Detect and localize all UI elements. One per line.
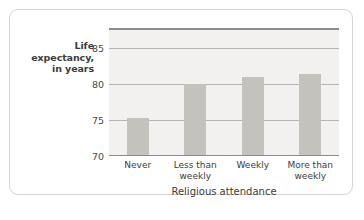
- x-axis-tick-label-line: Never: [107, 160, 169, 171]
- x-axis-tick-label-line: Weekly: [222, 160, 284, 171]
- x-axis-tick-label-line: weekly: [279, 171, 341, 182]
- x-axis-line: [109, 155, 339, 156]
- x-axis-label: Religious attendance: [109, 186, 339, 197]
- plot-area: 70758085 NeverLess thanweeklyWeeklyMore …: [109, 28, 339, 156]
- y-axis-tick-label: 70: [92, 151, 104, 162]
- y-axis-label-line-1: Life: [16, 40, 94, 52]
- x-axis-tick-label-line: Less than: [164, 160, 226, 171]
- y-axis-label-line-2: expectancy,: [16, 52, 94, 64]
- y-axis-tick-label: 80: [92, 79, 104, 90]
- x-axis-tick-label: Weekly: [222, 160, 284, 171]
- bar: [127, 118, 149, 155]
- y-axis-tick-label: 75: [92, 115, 104, 126]
- gridline: [109, 48, 339, 49]
- x-axis-tick-label-line: More than: [279, 160, 341, 171]
- bar: [242, 77, 264, 155]
- y-axis-label-line-3: in years: [16, 63, 94, 75]
- bar: [299, 74, 321, 155]
- y-axis-label: Life expectancy, in years: [16, 40, 94, 75]
- chart-card: Life expectancy, in years 70758085 Never…: [9, 9, 353, 195]
- x-axis-tick-label: Less thanweekly: [164, 160, 226, 182]
- y-axis-tick-label: 85: [92, 43, 104, 54]
- x-axis-tick-label: More thanweekly: [279, 160, 341, 182]
- x-axis-tick-label-line: weekly: [164, 171, 226, 182]
- bar: [184, 84, 206, 155]
- x-axis-tick-label: Never: [107, 160, 169, 171]
